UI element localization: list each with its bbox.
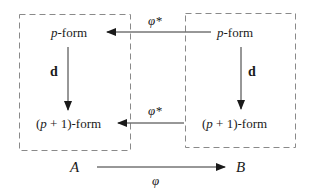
d-left-label: d (50, 65, 58, 79)
node-left-bottom-p1form: (p + 1)-form (36, 117, 101, 130)
node-mid: + 1) (47, 116, 72, 131)
diagram-canvas (0, 0, 310, 196)
d-right-label: d (248, 65, 256, 79)
pullback-top-label: φ* (148, 14, 162, 27)
space-a-label: A (70, 160, 79, 175)
node-left-top-pform: p-form (51, 26, 87, 39)
node-suffix: -form (238, 116, 268, 131)
node-right-top-pform: p-form (217, 26, 253, 39)
node-mid: + 1) (213, 116, 238, 131)
phi-map-label: φ (152, 174, 159, 187)
space-b-label: B (236, 160, 245, 175)
pullback-bottom-label: φ* (148, 104, 162, 117)
node-suffix: -form (224, 25, 254, 40)
node-suffix: -form (58, 25, 88, 40)
node-right-bottom-p1form: (p + 1)-form (202, 117, 267, 130)
node-suffix: -form (72, 116, 102, 131)
